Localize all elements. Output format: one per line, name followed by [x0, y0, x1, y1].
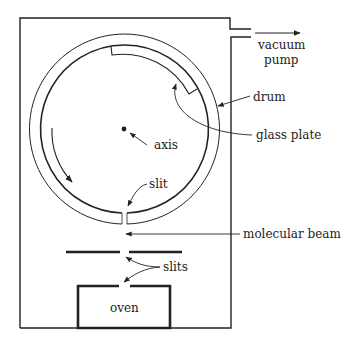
apparatus-diagram: vacuum pump axis drum glass plate slit m…	[0, 0, 344, 342]
vacuum-label: vacuum	[257, 38, 306, 52]
slits-label: slits	[163, 260, 188, 274]
oven-label: oven	[110, 301, 139, 315]
pump-label: pump	[264, 53, 299, 67]
axis-label: axis	[154, 138, 178, 152]
axis-pointer	[130, 133, 147, 145]
slit-pointer	[128, 184, 147, 206]
axis-dot	[122, 127, 127, 132]
slits-pointer-lower	[124, 267, 160, 282]
glass-plate-pointer	[175, 84, 252, 135]
slit-label: slit	[149, 177, 168, 191]
drum-label: drum	[253, 90, 286, 104]
drum-pointer	[218, 96, 250, 106]
molecular-beam-label: molecular beam	[243, 227, 341, 241]
rotation-arrow	[52, 128, 72, 182]
glass-plate-label: glass plate	[256, 128, 321, 142]
slits-pointer-upper	[126, 257, 160, 267]
